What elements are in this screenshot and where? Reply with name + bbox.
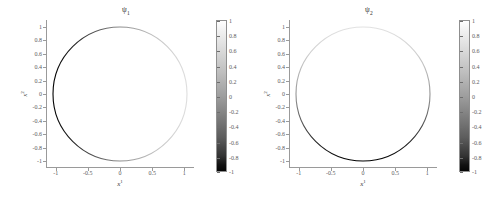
colorbar-tick-mark [460,36,463,37]
y-tick-mark [43,81,47,82]
y-tick-mark [286,54,290,55]
y-tick-mark [43,54,47,55]
colorbar-psi1: 10.80.60.40.20-0.2-0.4-0.6-0.8-1 [216,20,227,172]
y-tick-mark [43,40,47,41]
y-tick-label: 1 [282,24,285,30]
unit-circle-plot-psi1 [46,20,194,168]
colorbar-tick-label: -0.2 [472,109,482,115]
colorbar-tick-mark [217,172,220,173]
panel-psi1: ψ1 [0,0,243,197]
x-axis-label-superscript: 1 [363,179,366,184]
colorbar-tick-label: -1 [472,169,477,175]
panel-title-psi2: ψ2 [243,5,486,16]
colorbar-tick-label: 1 [229,18,232,24]
y-tick-mark [286,40,290,41]
x-tick-label: 0 [362,170,365,176]
y-tick-label: -0.6 [276,131,286,137]
y-axis-label-superscript: 2 [264,91,269,94]
colorbar-tick-label: 0.8 [229,33,237,39]
y-tick-label: -1 [280,158,285,164]
colorbar-tick-label: 0 [472,94,475,100]
y-tick-label: 0.8 [278,37,286,43]
colorbar-tick-mark [460,21,463,22]
colorbar-psi2: 10.80.60.40.20-0.2-0.4-0.6-0.8-1 [459,20,470,172]
colorbar-tick-label: 1 [472,18,475,24]
colorbar-tick-mark [460,67,463,68]
colorbar-tick-mark [217,82,220,83]
colorbar-tick-label: -0.6 [472,140,482,146]
y-tick-label: -0.4 [276,118,286,124]
y-tick-label: 0.8 [35,37,43,43]
colorbar-tick-mark [217,97,220,98]
y-tick-mark [286,27,290,28]
colorbar-tick-mark [460,172,463,173]
contour-ring [296,27,430,161]
colorbar-tick-mark [460,143,463,144]
panel-title-psi1: ψ1 [0,5,243,16]
y-tick-label: 0 [282,91,285,97]
y-tick-label: -0.4 [33,118,43,124]
x-tick-label: -0.5 [326,170,336,176]
colorbar-tick-mark [217,143,220,144]
x-axis-label: x1 [360,179,366,188]
plot-area-psi2: x1 x2 10.80.60.40.20-0.2-0.4-0.6-0.8-1-1… [289,20,437,168]
y-tick-label: 0.6 [35,51,43,57]
panel-title-subscript: 2 [370,10,373,16]
colorbar-tick-label: 0 [229,94,232,100]
colorbar-tick-mark [217,158,220,159]
plot-area-psi1: x1 x2 10.80.60.40.20-0.2-0.4-0.6-0.8-1-1… [46,20,194,168]
colorbar-tick-label: -1 [229,169,234,175]
y-tick-label: 0.2 [278,78,286,84]
y-axis-label-text: x [22,94,30,97]
colorbar-tick-mark [460,112,463,113]
colorbar-tick-mark [217,36,220,37]
colorbar-tick-mark [217,112,220,113]
y-tick-label: 1 [39,24,42,30]
colorbar-tick-mark [460,82,463,83]
y-tick-mark [286,161,290,162]
contour-ring [53,27,187,161]
x-axis-label-superscript: 1 [120,179,123,184]
colorbar-tick-label: -0.2 [229,109,239,115]
x-axis-label: x1 [117,179,123,188]
x-tick-label: 0.5 [391,170,399,176]
y-axis-label: x2 [264,91,273,97]
y-tick-mark [286,134,290,135]
colorbar-tick-mark [217,51,220,52]
colorbar-tick-mark [217,21,220,22]
y-tick-label: -0.8 [33,145,43,151]
y-tick-mark [286,67,290,68]
y-tick-mark [286,148,290,149]
y-tick-mark [43,134,47,135]
colorbar-tick-label: -0.4 [472,124,482,130]
unit-circle-plot-psi2 [289,20,437,168]
y-tick-label: 0.6 [278,51,286,57]
y-tick-label: -0.8 [276,145,286,151]
panel-title-subscript: 1 [127,10,130,16]
x-tick-label: -1 [53,170,58,176]
y-tick-label: -0.2 [33,104,43,110]
colorbar-tick-label: 0.4 [472,64,480,70]
y-tick-label: -0.2 [276,104,286,110]
y-tick-mark [43,107,47,108]
colorbar-tick-label: -0.8 [229,155,239,161]
x-tick-label: -0.5 [83,170,93,176]
x-tick-label: 0 [119,170,122,176]
x-tick-label: 1 [183,170,186,176]
y-tick-mark [286,121,290,122]
y-tick-label: 0 [39,91,42,97]
colorbar-tick-label: -0.6 [229,140,239,146]
y-tick-mark [43,94,47,95]
colorbar-tick-mark [460,97,463,98]
x-tick-label: 0.5 [148,170,156,176]
y-tick-mark [43,121,47,122]
colorbar-tick-label: 0.8 [472,33,480,39]
colorbar-tick-mark [217,67,220,68]
colorbar-tick-mark [460,127,463,128]
y-tick-mark [43,148,47,149]
colorbar-tick-label: 0.6 [472,48,480,54]
y-tick-label: -0.6 [33,131,43,137]
colorbar-tick-label: 0.2 [229,79,237,85]
colorbar-tick-mark [460,158,463,159]
x-tick-label: -1 [296,170,301,176]
